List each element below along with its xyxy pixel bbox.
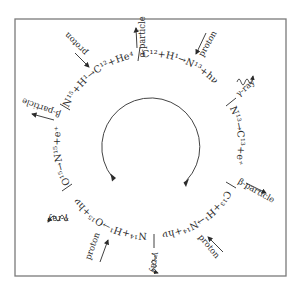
gamma-ray-r4: γ-ray [47, 214, 69, 224]
svg-text:α-particle: α-particle [137, 16, 147, 57]
outgoing-alpha-particle: α-particle [136, 16, 147, 57]
cno-cycle-diagram: C¹²+H¹→N¹³+hν N¹³→C¹³+e⁺ C¹³+H¹→N¹⁴+hν N… [0, 0, 301, 288]
